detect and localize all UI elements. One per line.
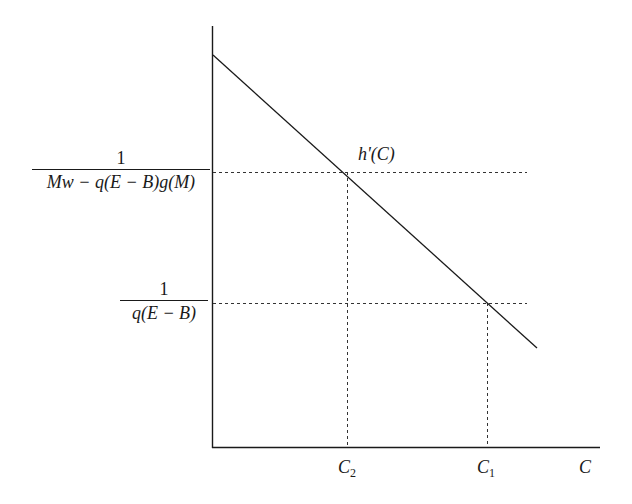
x-axis-label: C — [579, 458, 591, 476]
lower-y-denominator: q(E − B) — [120, 303, 208, 323]
diagram-canvas — [0, 0, 632, 504]
lower-y-fraction-bar — [120, 300, 208, 301]
lower-y-label: 1 q(E − B) — [120, 279, 208, 323]
upper-y-fraction-bar — [32, 169, 210, 170]
x-tick-c1: C1 — [477, 458, 495, 479]
x-tick-c2: C2 — [338, 458, 356, 479]
h-prime-curve — [213, 55, 537, 348]
upper-y-label: 1 Mw − q(E − B)g(M) — [32, 148, 210, 192]
upper-y-denominator: Mw − q(E − B)g(M) — [32, 172, 210, 192]
lower-y-numerator: 1 — [120, 279, 208, 299]
upper-y-numerator: 1 — [32, 148, 210, 168]
curve-label: h'(C) — [358, 145, 395, 163]
